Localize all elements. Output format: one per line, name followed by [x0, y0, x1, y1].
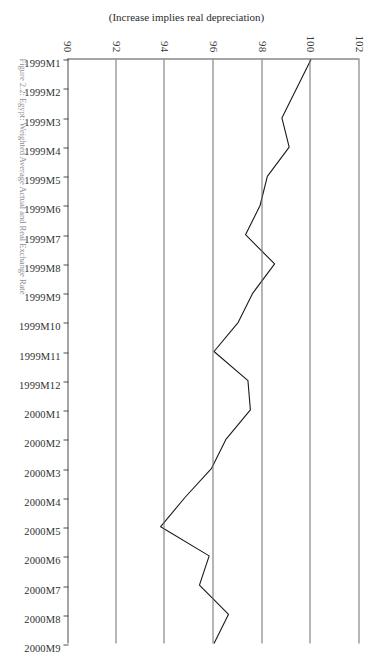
x-axis-tick — [63, 176, 68, 177]
x-axis-tick-label: 1999M4 — [24, 145, 60, 156]
x-axis-tick — [63, 235, 68, 236]
gridline — [309, 59, 310, 643]
x-axis-tick-label: 1999M5 — [24, 175, 60, 186]
x-axis-tick — [63, 469, 68, 470]
x-axis-tick-label: 1999M6 — [24, 204, 60, 215]
y-axis-tick-label: 92 — [110, 41, 122, 52]
x-axis-tick-label: 2000M3 — [24, 467, 60, 478]
y-axis-tick-label: 98 — [256, 41, 268, 52]
x-axis-tick — [63, 118, 68, 119]
x-axis-tick — [63, 59, 68, 60]
plot-area: 90929496981001021999M11999M21999M31999M4… — [67, 58, 359, 643]
y-axis-tick-label: 90 — [61, 41, 73, 52]
x-axis-tick — [63, 439, 68, 440]
x-axis-tick-label: 1999M3 — [24, 116, 60, 127]
x-axis-tick-label: 2000M8 — [24, 613, 60, 624]
y-axis-tick-label: 100 — [304, 35, 316, 52]
x-axis-tick-label: 2000M9 — [24, 643, 60, 654]
x-axis-tick — [63, 410, 68, 411]
gridline — [212, 59, 213, 643]
x-axis-tick — [63, 498, 68, 499]
gridline — [358, 59, 359, 643]
chart-block: 90929496981001021999M11999M21999M31999M4… — [67, 58, 359, 643]
x-axis-tick-label: 2000M4 — [24, 496, 60, 507]
x-axis-tick — [63, 352, 68, 353]
scanned-figure-page: (Increase implies real depreciation) 909… — [0, 0, 373, 667]
figure-caption: Figure 2.2: Egypt: Weighted Average Actu… — [16, 58, 28, 658]
gridline — [115, 59, 116, 643]
y-axis-title: (Increase implies real depreciation) — [109, 10, 264, 22]
x-axis-tick-label: 1999M2 — [24, 87, 60, 98]
x-axis-tick-label: 1999M9 — [24, 292, 60, 303]
x-axis-tick — [63, 322, 68, 323]
x-axis-tick-label: 1999M7 — [24, 233, 60, 244]
line-series — [68, 59, 359, 643]
x-axis-tick — [63, 644, 68, 645]
x-axis-tick — [63, 615, 68, 616]
x-axis-tick — [63, 88, 68, 89]
x-axis-tick — [63, 147, 68, 148]
x-axis-tick-label: 2000M7 — [24, 584, 60, 595]
x-axis-tick — [63, 381, 68, 382]
x-axis-tick-label: 2000M5 — [24, 526, 60, 537]
x-axis-tick — [63, 556, 68, 557]
y-axis-tick-label: 102 — [353, 35, 365, 52]
x-axis-tick — [63, 264, 68, 265]
x-axis-tick — [63, 527, 68, 528]
y-axis-tick-label: 94 — [158, 41, 170, 52]
x-axis-tick — [63, 586, 68, 587]
x-axis-tick — [63, 293, 68, 294]
x-axis-tick-label: 2000M1 — [24, 409, 60, 420]
x-axis-tick-label: 2000M2 — [24, 438, 60, 449]
y-axis-tick-label: 96 — [207, 41, 219, 52]
x-axis-tick-label: 2000M6 — [24, 555, 60, 566]
x-axis-tick — [63, 205, 68, 206]
x-axis-tick-label: 1999M8 — [24, 262, 60, 273]
figure-stage: (Increase implies real depreciation) 909… — [0, 0, 373, 667]
gridline — [261, 59, 262, 643]
gridline — [163, 59, 164, 643]
figure-inner: (Increase implies real depreciation) 909… — [0, 0, 373, 667]
x-axis-tick-label: 1999M1 — [24, 58, 60, 69]
